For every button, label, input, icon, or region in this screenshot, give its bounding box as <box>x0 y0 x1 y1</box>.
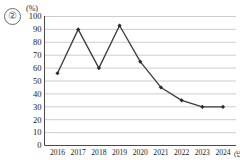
x-tick-label: 2024 <box>211 149 235 157</box>
series-markers <box>55 23 225 108</box>
y-tick-label: 60 <box>33 64 42 73</box>
y-tick-label: 40 <box>33 90 42 99</box>
y-tick-label: 70 <box>33 51 42 60</box>
y-tick-label: 20 <box>33 116 42 125</box>
series-line <box>58 26 224 107</box>
data-series <box>55 23 225 108</box>
y-tick-label: 0 <box>37 141 41 150</box>
data-point-marker <box>55 71 59 75</box>
y-tick-label: 90 <box>33 25 42 34</box>
y-tick-label: 50 <box>33 77 42 86</box>
data-point-marker <box>200 105 204 109</box>
chart-figure: ② (%) 0102030405060708090100 20162017201… <box>0 0 240 160</box>
x-axis-unit-label: (년) <box>234 150 240 158</box>
y-tick-label: 10 <box>33 128 42 137</box>
y-tick-label: 30 <box>33 103 42 112</box>
y-tick-label: 80 <box>33 38 42 47</box>
data-point-marker <box>221 105 225 109</box>
gridlines <box>45 17 237 146</box>
y-tick-label: 100 <box>29 12 42 21</box>
